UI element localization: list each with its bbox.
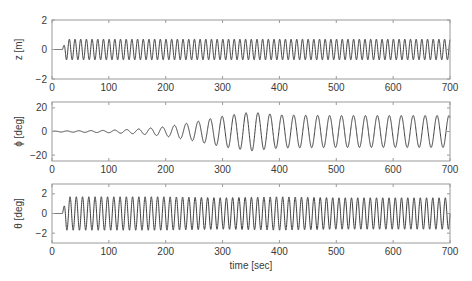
x-tick-label: 100 (101, 246, 118, 257)
y-axis-label: z [m] (13, 38, 24, 60)
y-axis-label: ϕ [deg] (13, 116, 24, 147)
x-tick-label: 200 (157, 246, 174, 257)
x-tick-label: 600 (385, 246, 402, 257)
x-tick-label: 600 (385, 82, 402, 93)
phi-line (52, 113, 450, 151)
y-axis-label: θ [deg] (13, 198, 24, 229)
x-tick-label: 600 (385, 164, 402, 175)
x-tick-label: 300 (214, 82, 231, 93)
x-tick-label: 700 (442, 246, 459, 257)
y-tick-label: 2 (41, 15, 47, 26)
x-tick-label: 200 (157, 164, 174, 175)
axes-frame (52, 20, 450, 79)
subplot-theta: 0100200300400500600700 −202 θ [deg] time… (13, 184, 459, 271)
y-ticks: −202 (36, 15, 450, 85)
x-tick-label: 300 (214, 164, 231, 175)
x-axis-label: time [sec] (230, 260, 273, 271)
x-tick-label: 500 (328, 82, 345, 93)
x-tick-label: 500 (328, 246, 345, 257)
subplot-z: 0100200300400500600700 −202 z [m] (13, 15, 459, 94)
y-tick-label: 0 (41, 44, 47, 55)
y-tick-label: −2 (36, 228, 48, 239)
z-line (52, 39, 450, 60)
x-tick-label: 400 (271, 246, 288, 257)
subplot-phi: 0100200300400500600700 −20020 ϕ [deg] (13, 102, 459, 175)
y-tick-label: −2 (36, 74, 48, 85)
x-tick-label: 400 (271, 82, 288, 93)
x-tick-label: 300 (214, 246, 231, 257)
y-tick-label: 20 (36, 102, 48, 113)
x-tick-label: 0 (49, 82, 55, 93)
x-tick-label: 700 (442, 82, 459, 93)
x-tick-label: 700 (442, 164, 459, 175)
x-tick-label: 0 (49, 164, 55, 175)
y-tick-label: 0 (41, 126, 47, 137)
x-tick-label: 500 (328, 164, 345, 175)
x-tick-label: 400 (271, 164, 288, 175)
x-tick-label: 100 (101, 82, 118, 93)
theta-line (52, 197, 450, 230)
y-tick-label: 0 (41, 208, 47, 219)
x-tick-label: 100 (101, 164, 118, 175)
y-tick-label: 2 (41, 188, 47, 199)
x-tick-label: 0 (49, 246, 55, 257)
figure: 0100200300400500600700 −202 z [m] 010020… (0, 0, 472, 281)
x-tick-label: 200 (157, 82, 174, 93)
y-tick-label: −20 (30, 150, 47, 161)
